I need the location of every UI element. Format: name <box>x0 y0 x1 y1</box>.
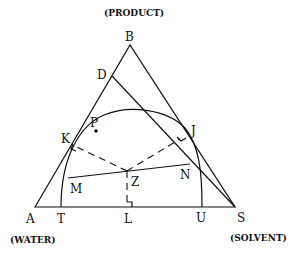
label-k: K <box>61 132 71 146</box>
label-d: D <box>97 68 107 82</box>
label-p: P <box>90 116 98 130</box>
dash-z-k <box>77 147 127 171</box>
caption-water: (WATER) <box>10 235 56 245</box>
label-z: Z <box>131 175 139 189</box>
ternary-diagram: (PRODUCT) (WATER) (SOLVENT) B D P K J M … <box>0 0 296 257</box>
right-angle-j <box>177 137 186 141</box>
label-n: N <box>180 168 191 182</box>
label-s: S <box>237 211 245 225</box>
label-l: L <box>124 212 132 226</box>
label-t: T <box>57 212 65 226</box>
right-angle-l <box>127 202 132 207</box>
label-a: A <box>25 212 35 226</box>
label-j: J <box>189 124 196 138</box>
caption-product: (PRODUCT) <box>104 8 164 18</box>
caption-solvent: (SOLVENT) <box>230 233 287 243</box>
label-u: U <box>196 211 206 225</box>
label-m: M <box>70 182 82 196</box>
tie-line-m-n <box>68 164 190 178</box>
label-b: B <box>125 30 134 44</box>
